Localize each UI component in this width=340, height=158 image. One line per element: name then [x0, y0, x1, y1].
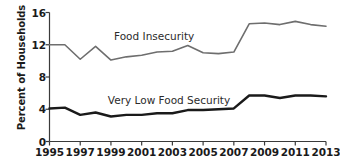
series-annotation-0: Food Insecurity	[114, 30, 194, 42]
x-axis-tick-label: 2007	[219, 146, 248, 158]
x-axis-tick-label: 2005	[188, 146, 217, 158]
x-axis-tick-label: 2013	[311, 146, 340, 158]
x-axis-tick-labels: 1995199719992001200320052007200920112013	[0, 143, 340, 158]
x-axis-tick-label: 1995	[35, 146, 64, 158]
plot-area	[0, 0, 340, 158]
x-axis-tick-label: 1997	[66, 146, 95, 158]
x-axis-tick-label: 2009	[250, 146, 279, 158]
x-axis-tick-label: 1999	[96, 146, 125, 158]
x-axis-tick-label: 2001	[127, 146, 156, 158]
food-insecurity-line-chart: Percent of Households 0481216 1995199719…	[0, 0, 340, 158]
x-axis-tick-label: 2003	[158, 146, 187, 158]
x-axis-tick-label: 2011	[281, 146, 310, 158]
series-annotation-1: Very Low Food Security	[108, 94, 230, 106]
